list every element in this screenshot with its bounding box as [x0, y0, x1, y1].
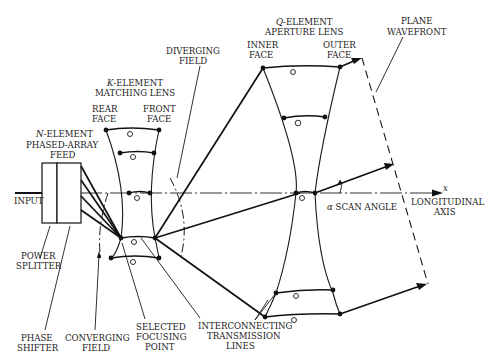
diverging-field-label-2: FIELD: [179, 56, 207, 66]
front-face-label-1: FRONT: [143, 104, 176, 114]
phased-array-feed: [42, 163, 81, 223]
inner-face-label-2: FACE: [249, 50, 273, 60]
feed-label-line1: N-ELEMENT: [35, 129, 93, 139]
aperture-lens-label-line1: Q-ELEMENT: [276, 17, 333, 27]
selected-point-label-2: FOCUSING: [136, 332, 187, 342]
plane-wavefront: [362, 58, 428, 284]
input-label: INPUT: [14, 196, 44, 206]
power-splitter-block: [42, 163, 57, 223]
phase-shifter-block: [57, 163, 81, 223]
diverging-rays: [155, 68, 300, 317]
converging-field-label-1: CONVERGING: [65, 333, 130, 343]
outer-face-label-2: FACE: [327, 50, 351, 60]
output-rays: [315, 58, 427, 314]
outer-face-label-1: OUTER: [323, 40, 356, 50]
matching-lens: [104, 128, 162, 265]
power-splitter-label-1: POWER: [21, 251, 56, 261]
plane-wavefront-label-2: WAVEFRONT: [387, 27, 447, 37]
matching-lens-label-line2: MATCHING LENS: [95, 88, 175, 98]
front-face-label-2: FACE: [147, 114, 171, 124]
feed-label-line3: FEED: [50, 150, 76, 160]
phase-shifter-label-2: SHIFTER: [17, 343, 59, 353]
interconnecting-label-2: TRANSMISSION: [207, 331, 281, 341]
longitudinal-axis-label-1: LONGITUDINAL: [411, 197, 485, 207]
phase-shifter-label-1: PHASE: [21, 333, 53, 343]
x-axis-label: x: [443, 183, 448, 193]
feed-label-line2: PHASED-ARRAY: [26, 140, 99, 150]
interconnecting-label-1: INTERCONNECTING: [198, 321, 293, 331]
selected-point-label-3: POINT: [145, 342, 175, 352]
rear-face-label-2: FACE: [92, 114, 116, 124]
scan-angle-label: α SCAN ANGLE: [327, 202, 397, 212]
converging-rays: [81, 166, 121, 238]
plane-wavefront-label-1: PLANE: [401, 16, 433, 26]
diverging-field-arc: [170, 178, 184, 260]
aperture-lens-label-line2: APERTURE LENS: [264, 27, 344, 37]
selected-point-label-1: SELECTED: [136, 322, 186, 332]
longitudinal-axis-label-2: AXIS: [433, 207, 456, 217]
rear-face-label-1: REAR: [92, 104, 118, 114]
scan-angle-indicator: [337, 180, 343, 193]
antenna-lens-diagram: INPUT N-ELEMENT PHASED-ARRAY FEED K-ELEM…: [0, 0, 491, 363]
inner-face-label-1: INNER: [247, 40, 279, 50]
interconnecting-label-3: LINES: [226, 341, 255, 351]
aperture-lens: [261, 65, 343, 323]
longitudinal-axis: [80, 190, 443, 197]
converging-field-label-2: FIELD: [82, 343, 110, 353]
power-splitter-label-2: SPLITTER: [16, 261, 62, 271]
matching-lens-label-line1: K-ELEMENT: [106, 78, 163, 88]
diverging-field-label-1: DIVERGING: [166, 46, 220, 56]
